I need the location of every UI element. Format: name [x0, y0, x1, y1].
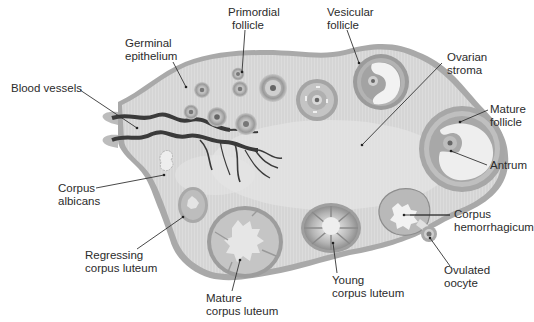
- label-vesicular-follicle: Vesicular follicle: [327, 6, 377, 31]
- label-mature-follicle: Mature follicle: [490, 103, 529, 128]
- label-germinal-epithelium: Germinal epithelium: [125, 37, 177, 62]
- label-corpus-hemorrhagicum: Corpus hemorrhagicum: [454, 208, 534, 233]
- label-regressing-corpus-luteum: Regressing corpus luteum: [85, 249, 157, 274]
- secondary-follicle: [296, 79, 338, 121]
- corpus-albicans-illustration: [160, 151, 173, 171]
- ovary-diagram: Primordial follicle Vesicular follicle G…: [0, 0, 534, 322]
- label-corpus-albicans: Corpus albicans: [58, 182, 100, 207]
- label-young-corpus-luteum: Young corpus luteum: [332, 274, 404, 299]
- label-antrum: Antrum: [490, 159, 527, 171]
- label-blood-vessels: Blood vessels: [11, 82, 82, 94]
- ovulated-oocyte-illustration: [421, 226, 437, 242]
- label-mature-corpus-luteum: Mature corpus luteum: [206, 292, 278, 317]
- label-primordial-follicle: Primordial follicle: [228, 6, 283, 31]
- label-ovulated-oocyte: Ovulated oocyte: [444, 264, 493, 289]
- mature-corpus-luteum-illustration: [207, 206, 283, 278]
- label-ovarian-stroma: Ovarian stroma: [447, 51, 490, 76]
- young-corpus-luteum-illustration: [301, 203, 361, 253]
- vesicular-follicle-illustration: [353, 54, 409, 110]
